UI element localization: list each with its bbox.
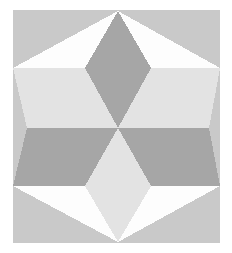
figure-stage: Six-Pointed Star Quilt Block — [0, 0, 232, 253]
geometric-pattern-figure — [0, 0, 232, 253]
